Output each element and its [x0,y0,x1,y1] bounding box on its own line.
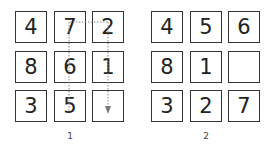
puzzle-2-cell-3: 6 [228,11,260,43]
puzzle-1-cell-2: 7 [54,11,86,43]
puzzle-2-cell-9: 7 [228,90,260,122]
puzzle-1-cell-9 [92,90,124,122]
puzzle-1-cell-8: 5 [54,90,86,122]
puzzle-2-cell-1: 4 [151,11,183,43]
puzzle-2-label: 2 [196,131,216,141]
puzzle-2-cell-2: 5 [190,11,222,43]
puzzle-1-cell-5: 6 [54,51,86,83]
puzzle-1-label: 1 [60,131,80,141]
puzzle-1-cell-1: 4 [15,11,47,43]
puzzle-2-cell-7: 3 [151,90,183,122]
puzzle-1-cell-3: 2 [92,11,124,43]
puzzle-2-cell-4: 8 [151,51,183,83]
puzzle-1-cell-4: 8 [15,51,47,83]
puzzle-2-cell-6 [228,51,260,83]
puzzle-1-cell-7: 3 [15,90,47,122]
puzzle-2-cell-5: 1 [190,51,222,83]
puzzle-1-cell-6: 1 [92,51,124,83]
puzzle-2-cell-8: 2 [190,90,222,122]
